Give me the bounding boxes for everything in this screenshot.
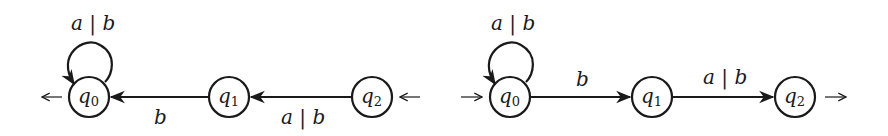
edge-label-b: b [576, 67, 589, 91]
state-q0: q0 [69, 77, 109, 117]
state-q1: q1 [632, 77, 672, 117]
loop-label: a | b [491, 11, 535, 36]
state-q2: q2 [775, 77, 815, 117]
state-q2: q2 [352, 77, 392, 117]
right-automaton: a | b b a | b q0 q1 q2 [461, 11, 846, 117]
edge-label-a-or-b: a | b [281, 105, 325, 130]
loop-label: a | b [71, 11, 115, 36]
left-automaton: a | b b a | b q0 q1 q2 [42, 11, 420, 130]
edge-label-b: b [154, 105, 167, 129]
state-q1: q1 [209, 77, 249, 117]
state-q0: q0 [490, 77, 530, 117]
edge-label-a-or-b: a | b [703, 65, 747, 90]
automata-diagram: a | b b a | b q0 q1 q2 a | b b [0, 0, 888, 136]
